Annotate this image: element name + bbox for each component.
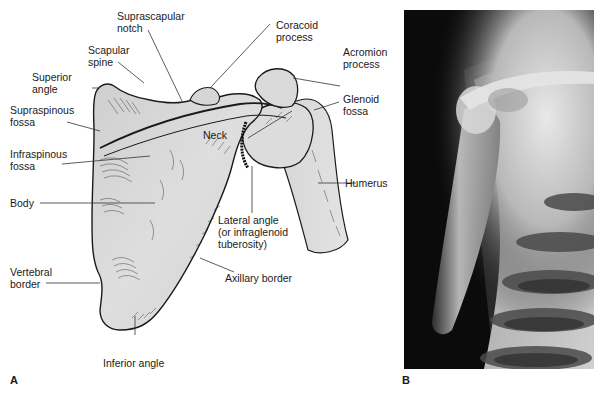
scapula-body-shape: [92, 84, 262, 330]
label-suprascapular-notch: Suprascapular notch: [117, 10, 185, 34]
label-coracoid-process: Coracoid process: [276, 19, 318, 43]
xray-image: [404, 10, 594, 369]
label-acromion-process: Acromion process: [343, 46, 387, 70]
label-superior-angle: Superior angle: [32, 71, 72, 95]
scapula-figure: Suprascapular notch Coracoid process Sca…: [0, 0, 599, 393]
label-vertebral-border: Vertebral border: [10, 266, 52, 290]
label-neck: Neck: [203, 129, 227, 141]
coracoid-shape: [190, 88, 219, 106]
label-humerus: Humerus: [345, 177, 388, 189]
label-axillary-border: Axillary border: [225, 272, 292, 284]
panel-letter-a: A: [10, 374, 18, 386]
label-scapular-spine: Scapular spine: [88, 44, 129, 68]
shoulder-xray: [404, 10, 594, 369]
label-glenoid-fossa: Glenoid fossa: [343, 93, 379, 117]
label-supraspinous-fossa: Supraspinous fossa: [10, 104, 74, 128]
scapula-illustration: [0, 0, 400, 393]
label-body: Body: [10, 197, 34, 209]
label-infraspinous-fossa: Infraspinous fossa: [10, 148, 67, 172]
panel-letter-b: B: [402, 374, 410, 386]
label-lateral-angle: Lateral angle (or infraglenoid tuberosit…: [218, 214, 288, 250]
label-inferior-angle: Inferior angle: [103, 357, 164, 369]
